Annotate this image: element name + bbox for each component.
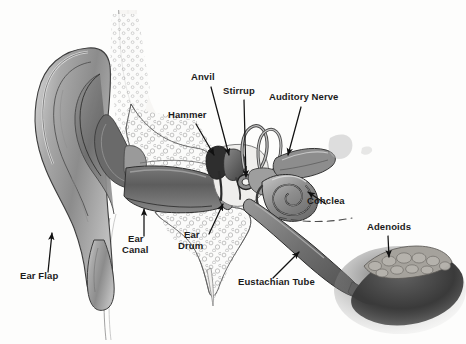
- label-ear-flap: Ear Flap: [20, 271, 58, 282]
- label-hammer: Hammer: [168, 110, 207, 121]
- label-ear-canal-line2: Canal: [122, 245, 148, 256]
- ear-anatomy-diagram: Ear Flap Ear Canal Ear Drum Hammer Anvil…: [0, 0, 466, 344]
- label-ear-canal-line1: Ear: [128, 234, 144, 245]
- label-ear-drum-line2: Drum: [178, 241, 203, 252]
- label-eustachian-tube: Eustachian Tube: [238, 277, 315, 288]
- label-adenoids: Adenoids: [367, 222, 411, 233]
- label-auditory-nerve: Auditory Nerve: [269, 92, 339, 103]
- ear-diagram-illustration: [0, 0, 466, 344]
- label-anvil: Anvil: [191, 72, 215, 83]
- label-ear-drum-line1: Ear: [184, 230, 200, 241]
- label-cochlea: Cohclea: [307, 196, 345, 207]
- label-stirrup: Stirrup: [223, 86, 255, 97]
- adenoids-mass: [334, 246, 466, 334]
